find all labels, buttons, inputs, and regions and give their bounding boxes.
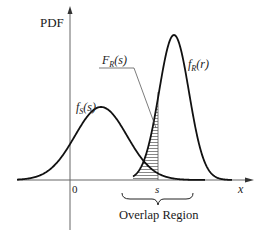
hatched-area-fr-s: [133, 98, 158, 180]
y-axis-label: PDF: [40, 15, 64, 30]
origin-label: 0: [72, 183, 78, 195]
strength-label-arg: (r): [196, 57, 209, 71]
s-marker-label: s: [155, 183, 159, 195]
stress-pdf-label: fS(s): [76, 100, 96, 116]
fr-s-label: FR(s): [101, 53, 127, 69]
interference-diagram: PDF 0 s x Overlap Region FR(s) fS(s) fR(…: [0, 0, 268, 240]
stress-label-arg: (s): [83, 100, 96, 114]
fr-s-label-arg: (s): [114, 53, 127, 67]
fr-s-leader-line: [99, 68, 156, 128]
x-axis-label: x: [237, 182, 244, 196]
x-axis-arrow-icon: [245, 178, 254, 183]
strength-pdf-label: fR(r): [188, 57, 209, 73]
stress-pdf-curve: [17, 107, 205, 180]
overlap-region-label: Overlap Region: [119, 208, 199, 222]
y-axis-arrow-icon: [68, 6, 73, 14]
